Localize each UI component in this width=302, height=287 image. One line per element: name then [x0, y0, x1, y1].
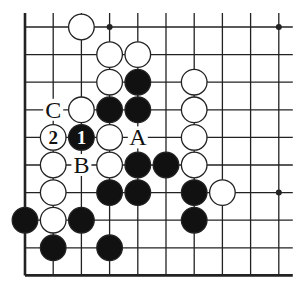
black-stone	[69, 207, 95, 233]
move-number-label: 1	[77, 127, 87, 148]
black-stone	[40, 235, 66, 261]
black-stone	[153, 152, 179, 178]
black-stone	[12, 207, 38, 233]
board-grid	[25, 13, 293, 275]
star-point	[276, 190, 282, 196]
white-stone	[69, 14, 95, 40]
black-stone	[125, 152, 151, 178]
move-number-label: 2	[48, 127, 58, 148]
white-stone	[210, 180, 236, 206]
star-point	[107, 24, 113, 30]
white-stone: 2	[40, 125, 66, 151]
white-stone	[181, 69, 207, 95]
white-stone	[125, 42, 151, 68]
white-stone	[97, 152, 123, 178]
svg-text:A: A	[129, 124, 147, 150]
point-label-a: A	[128, 124, 148, 150]
white-stone	[97, 125, 123, 151]
white-stone	[181, 97, 207, 123]
white-stone	[40, 152, 66, 178]
point-label-b: B	[71, 152, 91, 178]
white-stone	[97, 69, 123, 95]
black-stone: 1	[69, 125, 95, 151]
white-stone	[97, 42, 123, 68]
black-stone	[181, 207, 207, 233]
white-stone	[40, 207, 66, 233]
black-stone	[125, 180, 151, 206]
white-stone	[181, 125, 207, 151]
white-stone	[181, 152, 207, 178]
black-stone	[97, 97, 123, 123]
black-stone	[97, 235, 123, 261]
go-board-diagram: 21 CAB	[0, 0, 302, 287]
black-stone	[97, 180, 123, 206]
star-point	[276, 24, 282, 30]
svg-text:C: C	[45, 97, 61, 123]
white-stone	[69, 97, 95, 123]
black-stone	[125, 69, 151, 95]
point-label-c: C	[43, 97, 63, 123]
svg-text:B: B	[73, 152, 89, 178]
black-stone	[125, 97, 151, 123]
white-stone	[40, 180, 66, 206]
black-stone	[181, 180, 207, 206]
